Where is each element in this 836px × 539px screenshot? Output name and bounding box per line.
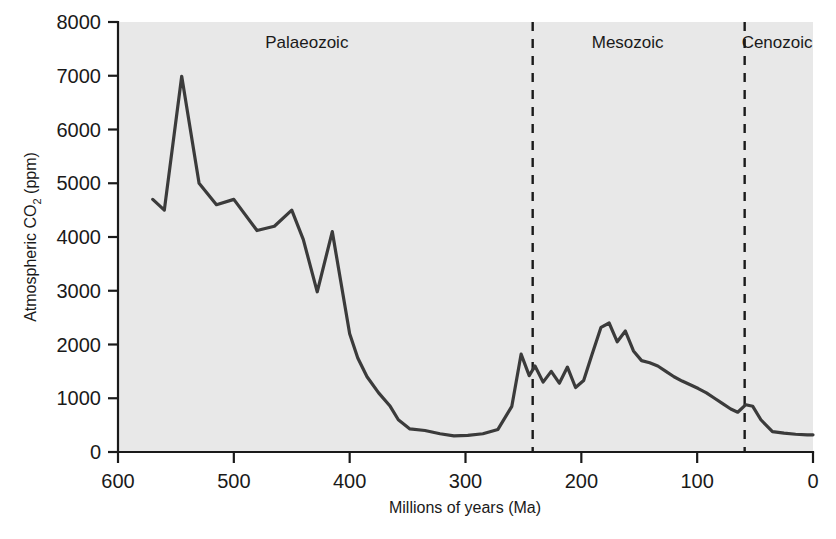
x-tick-label: 100	[680, 470, 713, 492]
era-label-mesozoic: Mesozoic	[592, 33, 664, 52]
y-tick-label: 6000	[57, 119, 102, 141]
x-axis-ticks	[118, 452, 813, 463]
y-tick-label: 4000	[57, 226, 102, 248]
x-tick-label: 0	[807, 470, 818, 492]
y-tick-label: 3000	[57, 280, 102, 302]
y-tick-label: 2000	[57, 334, 102, 356]
y-axis-title: Atmospheric CO2 (ppm)	[22, 152, 43, 322]
x-tick-label: 300	[449, 470, 482, 492]
plot-area-background	[118, 22, 813, 452]
y-axis-title-post: (ppm)	[22, 152, 39, 198]
era-label-cenozoic: Cenozoic	[742, 33, 813, 52]
y-axis-tick-labels: 010002000300040005000600070008000	[57, 11, 102, 463]
y-tick-label: 8000	[57, 11, 102, 33]
y-tick-label: 7000	[57, 65, 102, 87]
era-label-palaeozoic: Palaeozoic	[265, 33, 349, 52]
x-tick-label: 600	[101, 470, 134, 492]
x-axis-title: Millions of years (Ma)	[389, 499, 541, 516]
y-axis-ticks	[108, 22, 118, 452]
co2-through-time-chart: the composition of the atmosphere and on…	[0, 0, 836, 539]
y-axis-title-pre: Atmospheric CO	[22, 204, 39, 321]
y-tick-label: 1000	[57, 387, 102, 409]
x-tick-label: 400	[333, 470, 366, 492]
x-tick-label: 500	[217, 470, 250, 492]
y-tick-label: 5000	[57, 172, 102, 194]
y-tick-label: 0	[90, 441, 101, 463]
x-tick-label: 200	[565, 470, 598, 492]
x-axis-tick-labels: 6005004003002001000	[101, 470, 818, 492]
